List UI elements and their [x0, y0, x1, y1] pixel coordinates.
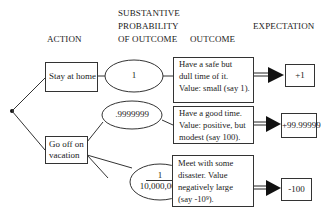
- outcome-text: Have a safe but: [179, 59, 232, 70]
- arrow-2: [253, 116, 281, 132]
- header-outcome: OUTCOME: [190, 34, 235, 45]
- outcome-text: disaster. Value: [178, 170, 227, 181]
- outcome-text: dull time of it.: [179, 71, 228, 82]
- expectation-value: -100: [282, 184, 311, 195]
- arrow-1: [253, 67, 284, 83]
- outcome-text: Value: positive, but: [179, 120, 246, 131]
- expectation-value: +1: [286, 70, 314, 81]
- header-of-outcome: OF OUTCOME: [118, 34, 177, 45]
- probability-value-1: 1: [126, 70, 142, 80]
- outcome-text: (say -109).: [178, 194, 214, 205]
- expectation-box-2: +99.99999: [281, 113, 317, 138]
- action-label-line2: vacation: [49, 150, 80, 161]
- outcome-text: Meet with some: [178, 158, 233, 169]
- probability-numerator: 1: [146, 170, 174, 181]
- expectation-value: +99.99999: [282, 120, 316, 131]
- expectation-box-3: -100: [281, 178, 312, 201]
- outcome-text: Have a good time.: [179, 108, 242, 119]
- outcome-text: Value: small (say 1).: [179, 83, 250, 94]
- header-action: ACTION: [47, 34, 82, 45]
- header-substantive: SUBSTANTIVE: [118, 8, 180, 19]
- outcome-text: negatively large: [178, 182, 233, 193]
- action-label: Stay at home: [49, 71, 96, 82]
- header-probability: PROBABILITY: [118, 21, 179, 32]
- outcome-box-2: Have a good time. Value: positive, but m…: [173, 106, 254, 144]
- arrow-3: [253, 180, 281, 196]
- header-expectation: EXPECTATION: [253, 21, 314, 32]
- outcome-text: modest (say 100).: [179, 132, 240, 143]
- action-go-on-vacation: Go off on vacation: [45, 136, 88, 164]
- probability-value-2: .9999999: [106, 109, 158, 119]
- action-stay-at-home: Stay at home: [45, 62, 98, 92]
- outcome-box-1: Have a safe but dull time of it. Value: …: [173, 57, 254, 103]
- outcome-box-3: Meet with some disaster. Value negativel…: [172, 155, 254, 207]
- action-label-line1: Go off on: [49, 139, 84, 150]
- expectation-box-1: +1: [285, 64, 315, 87]
